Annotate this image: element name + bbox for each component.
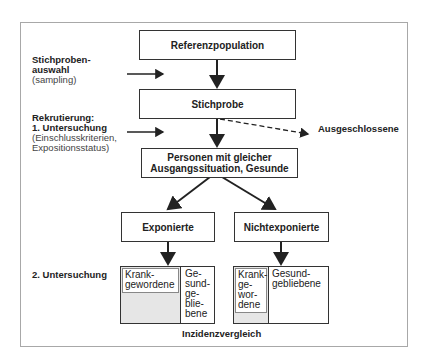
exposed-outcome-box: Krank- gewordene Ge- sund- ge- blie- ben… [120, 266, 215, 324]
sample-box: Stichprobe [139, 89, 296, 119]
unexposed-box: Nichtexponierte [234, 212, 329, 242]
reference-population-box: Referenzpopulation [139, 30, 296, 60]
exposed-label: Exponierte [142, 222, 194, 233]
recruitment-subtitle: (Einschlusskriterien, Expositionsstatus) [32, 133, 117, 153]
reference-population-label: Referenzpopulation [171, 40, 264, 51]
exposed-box: Exponierte [121, 212, 215, 242]
sampling-title: Stichproben- auswahl [32, 55, 91, 75]
exposed-sick-label: Krank- gewordene [122, 268, 179, 293]
exposed-sick-section: Krank- gewordene [121, 267, 181, 323]
unexposed-outcome-box: Krank- ge- wor- dene Gesund- gebliebene [233, 266, 329, 324]
unexposed-healthy-label: Gesund- gebliebene [272, 269, 321, 289]
recruitment-title: Rekrutierung: 1. Untersuchung [32, 113, 117, 133]
sampling-label-group: Stichproben- auswahl (sampling) [32, 55, 91, 85]
unexposed-sick-section: Krank- ge- wor- dene [234, 267, 269, 323]
baseline-population-label: Personen mit gleicher Ausgangssituation,… [150, 152, 288, 174]
excluded-label: Ausgeschlossene [318, 124, 399, 134]
recruitment-label-group: Rekrutierung: 1. Untersuchung (Einschlus… [32, 113, 117, 153]
second-exam-label: 2. Untersuchung [32, 270, 107, 280]
sampling-subtitle: (sampling) [32, 75, 91, 85]
baseline-population-box: Personen mit gleicher Ausgangssituation,… [141, 148, 298, 178]
unexposed-sick-label: Krank- ge- wor- dene [235, 268, 267, 313]
sample-label: Stichprobe [191, 99, 243, 110]
exposed-healthy-label: Ge- sund- ge- blie- bene [185, 269, 210, 319]
unexposed-label: Nichtexponierte [244, 222, 320, 233]
incidence-comparison-label: Inzidenzvergleich [182, 329, 261, 339]
